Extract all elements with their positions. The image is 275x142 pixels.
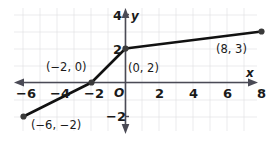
x-tick-label-6: 6: [223, 87, 232, 100]
data-point-8-3: [258, 28, 264, 34]
y-tick-label-4: 4: [113, 9, 122, 22]
x-tick-label-2: 2: [155, 87, 164, 100]
data-point-neg6-neg2: [20, 113, 26, 119]
y-tick-label-2: 2: [113, 43, 122, 56]
x-tick-label-4: 4: [189, 87, 198, 100]
point-label-8-3: (8, 3): [216, 44, 247, 56]
coordinate-plane-figure: 4 2 −2 −6 −4 −2 2 4 6 8 O y x (−2, 0) (0…: [0, 0, 275, 142]
origin-label: O: [114, 87, 124, 99]
y-tick-label-neg2: −2: [106, 110, 126, 123]
point-label-neg6-neg2: (−6, −2): [31, 120, 81, 132]
x-axis-label: x: [246, 67, 254, 79]
y-axis-label: y: [131, 10, 139, 22]
data-point-neg2-0: [88, 79, 94, 85]
x-tick-label-neg2: −2: [84, 87, 104, 100]
x-tick-label-neg4: −4: [50, 87, 70, 100]
data-point-0-2: [122, 45, 128, 51]
point-label-0-2: (0, 2): [128, 63, 159, 75]
x-tick-label-8: 8: [257, 87, 266, 100]
point-label-neg2-0: (−2, 0): [46, 62, 87, 74]
x-tick-label-neg6: −6: [16, 87, 36, 100]
